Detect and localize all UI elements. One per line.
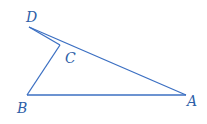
geometry-diagram: D C B A [0,0,207,124]
segment-bc [27,45,60,95]
label-b: B [16,100,27,116]
label-a: A [185,93,197,109]
label-d: D [25,9,37,25]
label-c: C [65,50,76,66]
segment-cd [29,27,60,45]
segment-da [29,27,186,95]
quadrilateral-figure: D C B A [0,0,207,124]
